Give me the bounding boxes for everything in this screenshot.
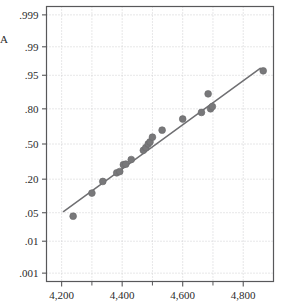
data-point-marker (128, 156, 135, 163)
data-point-marker (70, 213, 77, 220)
y-tick-label: .05 (25, 207, 39, 219)
normal-probability-plot-figure: .999.99.95.80.50.20.05.01.0014,2004,4004… (0, 0, 291, 308)
axis-title-stub: A (0, 33, 8, 45)
data-points (70, 67, 267, 219)
gridlines (47, 7, 274, 282)
data-point-marker (89, 190, 96, 197)
probability-plot-svg: .999.99.95.80.50.20.05.01.0014,2004,4004… (0, 0, 291, 308)
y-tick-label: .95 (25, 69, 39, 81)
data-point-marker (179, 116, 186, 123)
data-point-marker (260, 67, 267, 74)
x-tick-label: 4,400 (110, 289, 135, 301)
y-tick-label: .01 (25, 235, 39, 247)
data-point-marker (99, 178, 106, 185)
y-tick-label: .80 (25, 103, 39, 115)
x-tick-label: 4,600 (170, 289, 195, 301)
y-tick-label: .001 (19, 267, 38, 279)
data-point-marker (205, 90, 212, 97)
axis-tick-labels: .999.99.95.80.50.20.05.01.0014,2004,4004… (0, 9, 256, 301)
y-tick-label: .50 (25, 138, 39, 150)
data-point-marker (149, 134, 156, 141)
data-point-marker (159, 127, 166, 134)
data-point-marker (198, 109, 205, 116)
x-tick-label: 4,200 (49, 289, 74, 301)
x-tick-label: 4,800 (231, 289, 256, 301)
data-point-marker (209, 103, 216, 110)
y-tick-label: .999 (19, 9, 39, 21)
y-tick-label: .99 (25, 41, 39, 53)
data-point-marker (116, 168, 123, 175)
data-point-marker (122, 161, 129, 168)
y-tick-label: .20 (25, 173, 39, 185)
